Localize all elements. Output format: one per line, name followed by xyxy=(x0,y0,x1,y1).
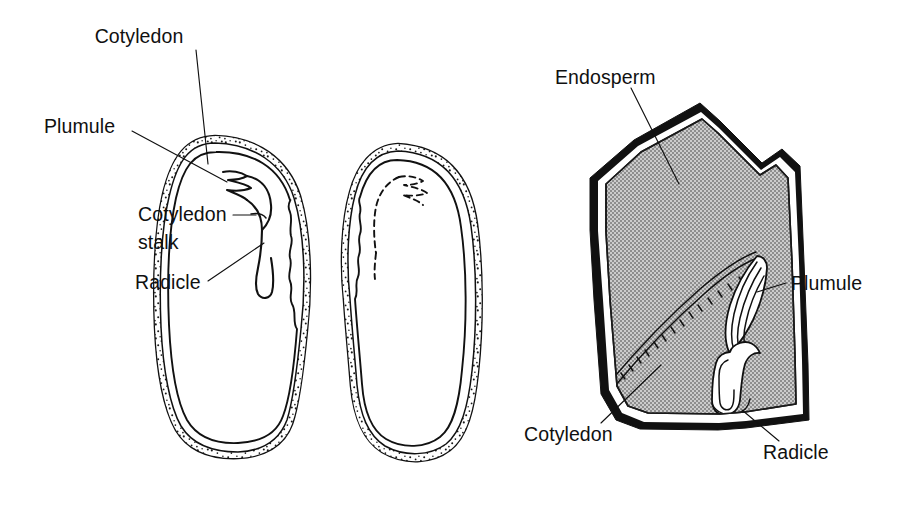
label-endosperm: Endosperm xyxy=(555,66,656,88)
bean-half-left xyxy=(145,128,325,470)
seed-structure-figure: Cotyledon Plumule Cotyledon stalk Radicl… xyxy=(0,0,913,507)
label-cotyledon-bottom: Cotyledon xyxy=(524,423,613,445)
label-plumule-right: Plumule xyxy=(791,272,862,294)
label-cotyledon-stalk-line2: stalk xyxy=(138,231,179,253)
label-cotyledon-stalk-line1: Cotyledon xyxy=(138,203,227,225)
bean-right-cotyledon-body xyxy=(355,160,466,446)
diagram-canvas: Cotyledon Plumule Cotyledon stalk Radicl… xyxy=(0,0,913,507)
corn-grain xyxy=(590,103,809,430)
label-radicle-right: Radicle xyxy=(763,441,829,463)
label-radicle-left: Radicle xyxy=(135,271,201,293)
label-plumule-left: Plumule xyxy=(44,115,115,137)
label-cotyledon-top: Cotyledon xyxy=(95,25,184,47)
bean-half-right xyxy=(334,136,494,476)
bean-left-cotyledon-body xyxy=(168,152,297,443)
